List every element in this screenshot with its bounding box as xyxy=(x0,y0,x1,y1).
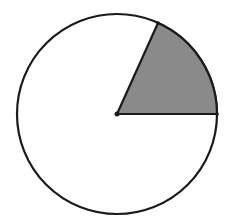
arc-endpoint-right xyxy=(215,112,219,116)
arc-endpoint-top xyxy=(156,21,160,25)
circle-sector-diagram xyxy=(0,0,226,224)
center-point xyxy=(115,112,120,117)
